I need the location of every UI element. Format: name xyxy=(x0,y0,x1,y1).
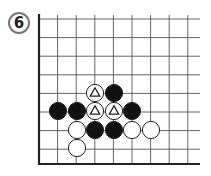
go-board xyxy=(0,0,211,176)
black-stone xyxy=(68,102,85,119)
white-stone xyxy=(68,139,85,156)
white-stone xyxy=(68,121,85,138)
white-stone xyxy=(142,121,159,138)
white-stone xyxy=(123,121,140,138)
black-stone xyxy=(105,121,122,138)
black-stone xyxy=(86,121,103,138)
black-stone xyxy=(49,102,66,119)
black-stone xyxy=(105,84,122,101)
black-stone xyxy=(123,102,140,119)
